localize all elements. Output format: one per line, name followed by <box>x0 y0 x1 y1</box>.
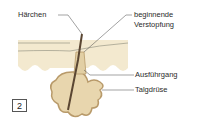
label-gland: Talgdrüse <box>135 86 168 95</box>
leader-line-duct <box>84 70 134 75</box>
diagram-illustration <box>0 0 207 138</box>
leader-line-hair <box>58 15 82 34</box>
figure-number: 2 <box>12 99 27 112</box>
label-hair: Härchen <box>18 11 46 20</box>
label-blockage-line1: beginnende <box>134 11 173 20</box>
sebaceous-gland-diagram: Härchen beginnende Verstopfung Ausführga… <box>0 0 207 138</box>
label-blockage-line2: Verstopfung <box>134 21 174 30</box>
sebaceous-gland <box>51 72 103 117</box>
label-duct: Ausführgang <box>135 71 178 80</box>
